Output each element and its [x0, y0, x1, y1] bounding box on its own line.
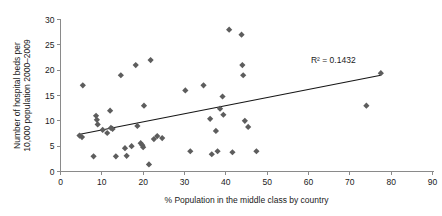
annotation-r-squared: R² = 0.1432: [311, 55, 356, 65]
x-tick-label-50: 50: [262, 177, 272, 187]
x-tick-label-40: 40: [221, 177, 231, 187]
y-tick-label-15: 15: [45, 91, 55, 101]
data-point: [124, 153, 130, 159]
y-tick-label-30: 30: [45, 15, 55, 25]
data-point: [214, 148, 220, 154]
x-tick-label-0: 0: [58, 177, 63, 187]
y-axis-title: Number of hospital beds per10,000 popula…: [12, 39, 32, 152]
data-point: [238, 32, 244, 38]
data-point: [80, 82, 86, 88]
y-axis-title-line-2: 10,000 population 2000–2009: [22, 39, 32, 152]
data-point: [213, 128, 219, 134]
x-axis: 0102030405060708090: [58, 172, 437, 187]
y-tick-label-5: 5: [50, 141, 55, 151]
data-point: [94, 117, 100, 123]
data-point: [113, 153, 119, 159]
y-tick-label-0: 0: [50, 167, 55, 177]
x-tick-label-30: 30: [180, 177, 190, 187]
data-point: [128, 143, 134, 149]
data-point: [207, 116, 213, 122]
y-tick-label-25: 25: [45, 40, 55, 50]
data-point: [146, 161, 152, 167]
data-point: [253, 148, 259, 154]
data-point: [240, 72, 246, 78]
y-axis-title-line-1: Number of hospital beds per: [12, 42, 22, 149]
data-point: [200, 82, 206, 88]
data-point: [90, 153, 96, 159]
y-axis: 051015202530: [45, 15, 60, 177]
data-point: [107, 108, 113, 114]
scatter-chart-figure: 0510152025300102030405060708090% Populat…: [0, 0, 442, 216]
data-point: [100, 127, 106, 133]
x-tick-label-10: 10: [97, 177, 107, 187]
y-tick-label-20: 20: [45, 65, 55, 75]
data-point: [148, 57, 154, 63]
data-point: [95, 121, 101, 127]
data-point: [219, 93, 225, 99]
data-points: [76, 27, 384, 168]
data-point: [229, 149, 235, 155]
x-tick-label-60: 60: [304, 177, 314, 187]
data-point: [141, 103, 147, 109]
data-point: [187, 148, 193, 154]
data-point: [220, 112, 226, 118]
linear-trendline: [79, 75, 381, 134]
data-point: [242, 118, 248, 124]
chart-svg: 0510152025300102030405060708090% Populat…: [0, 0, 442, 216]
data-point: [245, 124, 251, 130]
x-tick-label-80: 80: [386, 177, 396, 187]
data-point: [239, 62, 245, 68]
data-point: [226, 27, 232, 33]
data-point: [363, 103, 369, 109]
data-point: [122, 145, 128, 151]
data-point: [209, 151, 215, 157]
y-tick-label-10: 10: [45, 116, 55, 126]
data-point: [133, 62, 139, 68]
x-tick-label-20: 20: [138, 177, 148, 187]
data-point: [118, 72, 124, 78]
x-tick-label-90: 90: [428, 177, 438, 187]
x-axis-title: % Population in the middle class by coun…: [165, 195, 330, 205]
x-tick-label-70: 70: [345, 177, 355, 187]
data-point: [104, 130, 110, 136]
data-point: [182, 87, 188, 93]
